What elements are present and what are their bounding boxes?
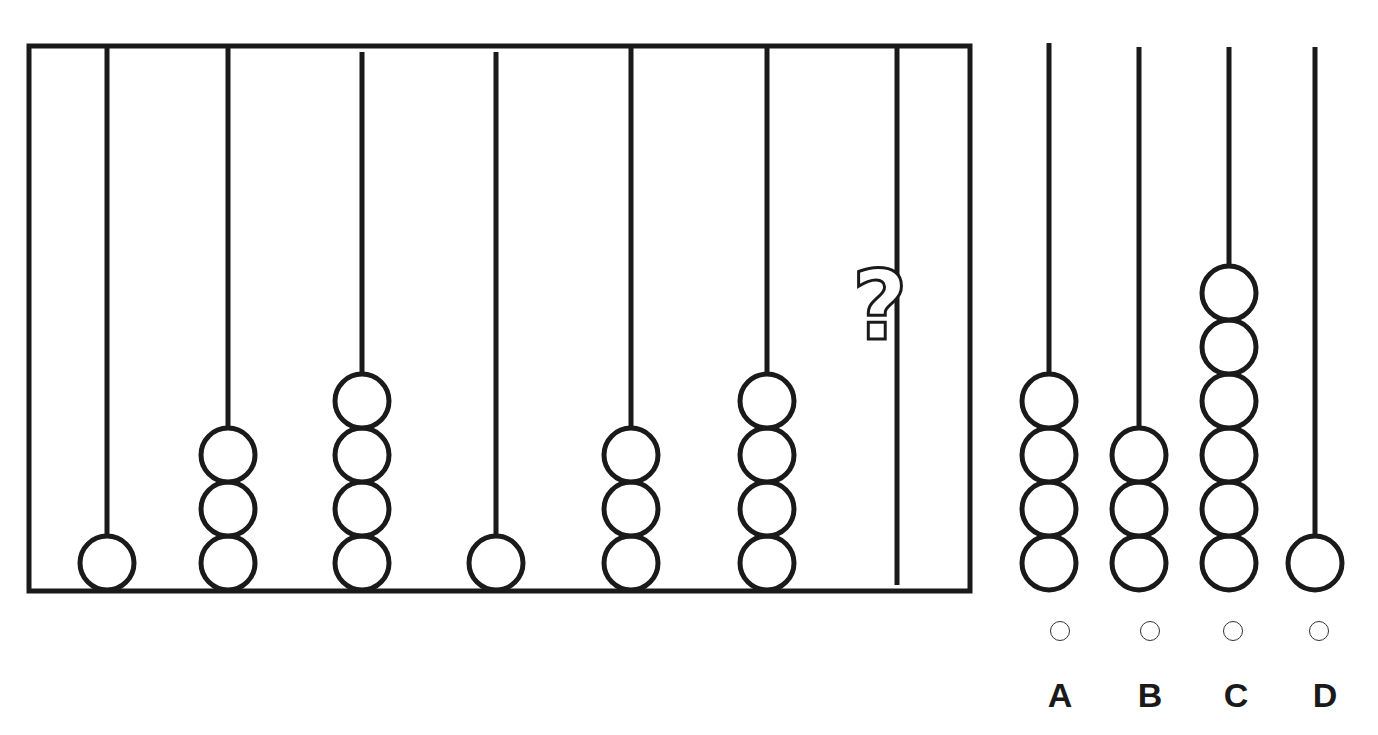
frame-rod-5-bead bbox=[604, 482, 658, 536]
option-b-abacus-bead bbox=[1112, 536, 1166, 590]
frame-rod-3 bbox=[335, 52, 389, 590]
option-c-abacus-bead bbox=[1202, 266, 1256, 320]
option-b-abacus-bead bbox=[1112, 482, 1166, 536]
option-c-abacus-bead bbox=[1202, 320, 1256, 374]
frame-rod-1-bead bbox=[80, 536, 134, 590]
option-d-label[interactable]: D bbox=[1295, 676, 1355, 715]
option-a-abacus-bead bbox=[1022, 482, 1076, 536]
option-c-abacus bbox=[1202, 47, 1256, 590]
frame-rod-3-bead bbox=[335, 428, 389, 482]
frame-rod-5-bead bbox=[604, 536, 658, 590]
option-a-abacus bbox=[1022, 43, 1076, 590]
frame-rod-2 bbox=[201, 47, 255, 590]
frame-rod-4 bbox=[469, 52, 523, 590]
frame-rod-3-bead bbox=[335, 482, 389, 536]
abacus-diagram bbox=[0, 0, 1378, 735]
frame-rod-2-bead bbox=[201, 482, 255, 536]
option-c-abacus-bead bbox=[1202, 428, 1256, 482]
option-d-abacus-bead bbox=[1288, 536, 1342, 590]
frame-rod-6 bbox=[740, 47, 794, 590]
frame-border bbox=[29, 46, 970, 591]
frame-rod-2-bead bbox=[201, 536, 255, 590]
frame-rod-5-bead bbox=[604, 428, 658, 482]
frame-rod-4-bead bbox=[469, 536, 523, 590]
frame-rod-6-bead bbox=[740, 428, 794, 482]
option-b-label[interactable]: B bbox=[1120, 676, 1180, 715]
abacus-frame bbox=[29, 46, 970, 591]
frame-rod-6-bead bbox=[740, 482, 794, 536]
option-a-label[interactable]: A bbox=[1030, 676, 1090, 715]
abacus-rods bbox=[80, 47, 897, 590]
frame-rod-2-bead bbox=[201, 428, 255, 482]
frame-rod-3-bead bbox=[335, 536, 389, 590]
option-b-radio[interactable] bbox=[1140, 621, 1160, 641]
option-c-label[interactable]: C bbox=[1206, 676, 1266, 715]
frame-rod-1 bbox=[80, 47, 134, 590]
option-a-abacus-bead bbox=[1022, 536, 1076, 590]
option-c-abacus-bead bbox=[1202, 482, 1256, 536]
option-c-abacus-bead bbox=[1202, 374, 1256, 428]
frame-rod-6-bead bbox=[740, 536, 794, 590]
answer-options bbox=[1022, 43, 1342, 590]
option-b-abacus bbox=[1112, 47, 1166, 590]
frame-rod-3-bead bbox=[335, 374, 389, 428]
option-c-abacus-bead bbox=[1202, 536, 1256, 590]
option-c-radio[interactable] bbox=[1223, 621, 1243, 641]
option-a-abacus-bead bbox=[1022, 428, 1076, 482]
option-d-radio[interactable] bbox=[1309, 621, 1329, 641]
option-a-radio[interactable] bbox=[1050, 621, 1070, 641]
option-d-abacus bbox=[1288, 47, 1342, 590]
frame-rod-5 bbox=[604, 47, 658, 590]
option-a-abacus-bead bbox=[1022, 374, 1076, 428]
question-mark-icon: ? bbox=[852, 258, 908, 354]
option-b-abacus-bead bbox=[1112, 428, 1166, 482]
frame-rod-6-bead bbox=[740, 374, 794, 428]
